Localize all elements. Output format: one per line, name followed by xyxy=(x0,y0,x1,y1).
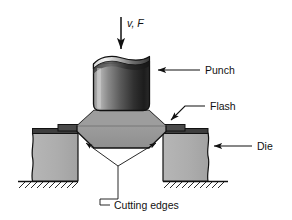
die-label: Die xyxy=(257,140,273,152)
forging-diagram: v, F Punch Flash Die Cutting edges xyxy=(0,0,292,220)
punch-label: Punch xyxy=(205,64,235,76)
force-label: v, F xyxy=(127,17,144,29)
punch xyxy=(94,56,150,110)
workpiece xyxy=(77,111,166,149)
ground-right xyxy=(163,182,228,189)
cutting-edges-label: Cutting edges xyxy=(114,199,179,211)
flash-label: Flash xyxy=(210,100,236,112)
flash-leader xyxy=(171,106,205,120)
die-right xyxy=(163,129,209,182)
ground-left xyxy=(18,182,78,189)
cutting-edges-leaders xyxy=(86,143,156,205)
die-left xyxy=(32,129,78,182)
